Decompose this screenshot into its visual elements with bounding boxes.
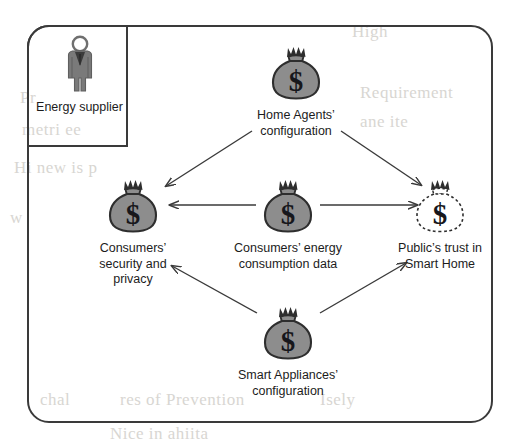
money-bag-icon: $ — [257, 178, 319, 240]
svg-text:$: $ — [289, 65, 304, 97]
money-bag-icon: $ — [257, 305, 319, 367]
node-consumers-security-label: Consumers’ security and privacy — [99, 241, 166, 288]
node-public-trust-label: Public’s trust in Smart Home — [398, 241, 482, 272]
node-consumers-energy-data[interactable]: $ Consumers’ energy consumption data — [213, 178, 363, 272]
energy-supplier-label: Energy supplier — [36, 100, 123, 115]
money-bag-dashed-icon: $ — [409, 178, 471, 240]
node-smart-appliances-label: Smart Appliances’ configuration — [238, 368, 338, 399]
money-bag-icon: $ — [265, 45, 327, 107]
bleed-text-6: w — [10, 208, 23, 228]
node-consumers-security[interactable]: $ Consumers’ security and privacy — [58, 178, 208, 288]
node-smart-appliances[interactable]: $ Smart Appliances’ configuration — [213, 305, 363, 399]
diagram-canvas: HighPrRequirementmetri eeane iteHi new i… — [0, 0, 517, 445]
bleed-text-10: Nice in ahiita — [110, 424, 209, 444]
svg-text:$: $ — [281, 198, 296, 230]
node-consumers-energy-data-label: Consumers’ energy consumption data — [234, 241, 342, 272]
node-home-agents-label: Home Agents’ configuration — [257, 108, 335, 139]
energy-supplier-box: Energy supplier — [27, 25, 128, 147]
svg-text:$: $ — [126, 198, 141, 230]
person-icon — [60, 35, 100, 97]
svg-text:$: $ — [281, 325, 296, 357]
node-home-agents[interactable]: $ Home Agents’ configuration — [221, 45, 371, 139]
node-public-trust[interactable]: $ Public’s trust in Smart Home — [365, 178, 515, 272]
money-bag-icon: $ — [102, 178, 164, 240]
svg-text:$: $ — [433, 198, 448, 230]
